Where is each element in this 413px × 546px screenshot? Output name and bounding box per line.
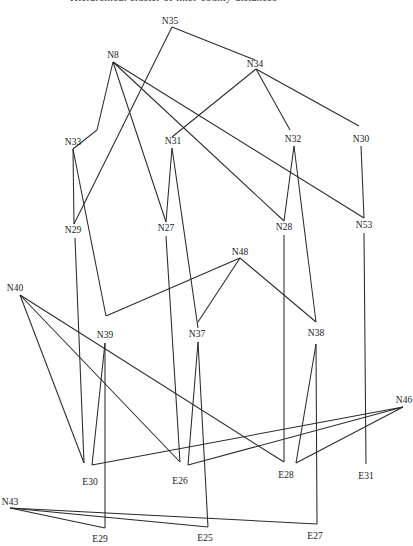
- node-n35: N35: [162, 16, 179, 26]
- node-n39: N39: [97, 330, 114, 340]
- node-n30: N30: [353, 134, 370, 144]
- node-n38: N38: [308, 328, 325, 338]
- node-n28: N28: [276, 222, 293, 232]
- node-e28: E28: [278, 470, 294, 480]
- node-n34: N34: [247, 59, 264, 69]
- edge-n8-n33: [73, 62, 113, 149]
- edge-n48-n39: [106, 258, 240, 316]
- edge-n39-e30: [92, 343, 105, 465]
- edge-n48-n38: [240, 258, 316, 322]
- node-n48: N48: [232, 247, 249, 257]
- edge-n38-e28: [296, 344, 316, 463]
- edge-n32-n28: [284, 146, 294, 221]
- edge-n30-n53: [361, 146, 364, 218]
- node-e31: E31: [358, 471, 374, 481]
- node-n8: N8: [107, 50, 119, 60]
- node-n29: N29: [65, 225, 82, 235]
- edge-n32-n38: [294, 146, 316, 322]
- edge-layer: [10, 27, 403, 528]
- node-n43: N43: [2, 497, 19, 507]
- edge-n53-e31: [364, 233, 366, 464]
- node-e30: E30: [82, 477, 98, 487]
- cluster-diagram: N35N8N34N33N31N32N30N29N27N28N53N48N40N3…: [0, 0, 413, 546]
- edge-n46-e30: [92, 407, 403, 465]
- node-label-layer: N35N8N34N33N31N32N30N29N27N28N53N48N40N3…: [2, 16, 413, 544]
- node-n33: N33: [65, 137, 82, 147]
- node-e25: E25: [197, 533, 213, 543]
- edge-n8-n28: [113, 62, 284, 221]
- node-n31: N31: [165, 136, 182, 146]
- edge-n38-e27: [316, 344, 317, 524]
- node-n32: N32: [285, 134, 302, 144]
- node-n46: N46: [396, 395, 413, 405]
- edge-n40-e30: [20, 295, 84, 463]
- node-e29: E29: [92, 534, 108, 544]
- node-e27: E27: [307, 531, 323, 541]
- edge-n43-e25: [10, 508, 208, 527]
- edge-n35-n34: [172, 27, 255, 60]
- edge-n27-e26: [166, 236, 180, 462]
- node-e26: E26: [172, 476, 188, 486]
- edge-n8-n53: [113, 62, 364, 218]
- edge-n46-e28: [296, 407, 403, 463]
- edge-n43-e27: [10, 508, 317, 524]
- node-n37: N37: [189, 329, 206, 339]
- node-n40: N40: [7, 283, 24, 293]
- edge-n34-n31: [172, 69, 256, 137]
- node-n53: N53: [356, 220, 373, 230]
- edge-n40-e26: [20, 295, 180, 462]
- edge-n29-e30: [75, 238, 84, 463]
- edge-n31-n27: [166, 148, 172, 222]
- node-n27: N27: [158, 223, 175, 233]
- edge-n33-n29: [73, 149, 74, 224]
- edge-n31-n37: [172, 148, 198, 328]
- edge-n46-e26: [188, 407, 403, 465]
- edge-n37-e25: [198, 342, 208, 527]
